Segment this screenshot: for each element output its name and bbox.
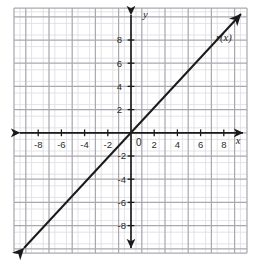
origin-label: 0 [136,137,142,148]
y-tick-label-4: 4 [117,81,122,92]
y-tick-label-6: 6 [117,58,122,69]
y-tick-label-neg2: -2 [118,150,126,161]
x-tick-label-neg4: -4 [80,139,88,150]
x-tick-label-2: 2 [152,139,157,150]
x-tick-label-neg6: -6 [57,139,65,150]
x-axis-label: x [235,135,241,146]
x-tick-label-4: 4 [175,139,180,150]
coordinate-graph-figure: -8 -6 -4 -2 2 4 6 8 8 6 4 2 -2 -4 -6 -8 … [0,0,260,265]
x-tick-label-6: 6 [198,139,203,150]
x-tick-label-neg2: -2 [104,139,112,150]
y-tick-label-2: 2 [117,104,122,115]
y-tick-label-neg8: -8 [118,220,126,231]
y-tick-label-neg4: -4 [118,174,126,185]
y-tick-label-8: 8 [117,34,122,45]
x-tick-label-neg8: -8 [34,139,42,150]
y-axis-label: y [142,9,148,20]
function-label: r(x) [216,32,232,44]
coordinate-plane-svg: -8 -6 -4 -2 2 4 6 8 8 6 4 2 -2 -4 -6 -8 … [0,0,260,265]
y-tick-label-neg6: -6 [118,197,126,208]
x-tick-label-8: 8 [221,139,226,150]
